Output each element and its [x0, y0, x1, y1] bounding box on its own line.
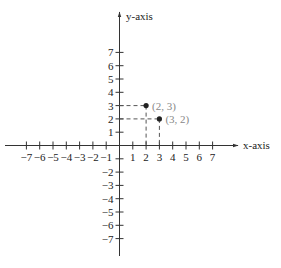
- x-tick-label: 3: [157, 151, 163, 163]
- y-axis-label: y-axis: [126, 10, 153, 22]
- x-tick-label: −4: [60, 151, 72, 163]
- x-tick-label: −7: [21, 151, 33, 163]
- x-tick-label: −6: [34, 151, 46, 163]
- x-tick-label: 4: [170, 151, 176, 163]
- data-points: (2, 3)(3, 2): [144, 100, 190, 126]
- y-tick-label: −4: [102, 193, 114, 205]
- x-tick-label: 2: [143, 151, 149, 163]
- y-tick-label: −5: [102, 206, 114, 218]
- y-tick-label: −2: [102, 166, 114, 178]
- y-tick-label: 2: [108, 113, 114, 125]
- x-tick-label: −2: [87, 151, 99, 163]
- x-tick-label: 6: [197, 151, 203, 163]
- point-label: (3, 2): [165, 113, 189, 126]
- y-tick-label: 1: [108, 126, 114, 138]
- y-tick-label: 5: [108, 73, 114, 85]
- data-point: [157, 116, 162, 121]
- point-label: (2, 3): [152, 100, 176, 113]
- y-tick-label: 6: [108, 60, 114, 72]
- x-tick-label: 5: [183, 151, 189, 163]
- y-tick-label: −3: [102, 179, 114, 191]
- data-point: [144, 103, 149, 108]
- x-tick-label: 1: [130, 151, 136, 163]
- y-tick-label: −6: [102, 219, 114, 231]
- y-tick-label: 7: [108, 46, 114, 58]
- coordinate-plane: −7−6−5−4−3−2−11234567−7−6−5−4−3−21234567…: [0, 0, 281, 268]
- x-axis-label: x-axis: [243, 139, 270, 151]
- y-tick-label: 4: [108, 86, 114, 98]
- y-tick-label: 3: [108, 100, 114, 112]
- x-tick-label: −1: [100, 151, 112, 163]
- x-tick-label: −3: [74, 151, 86, 163]
- x-tick-label: 7: [210, 151, 216, 163]
- axes: [5, 12, 238, 256]
- x-tick-label: −5: [47, 151, 59, 163]
- y-tick-label: −7: [102, 233, 114, 245]
